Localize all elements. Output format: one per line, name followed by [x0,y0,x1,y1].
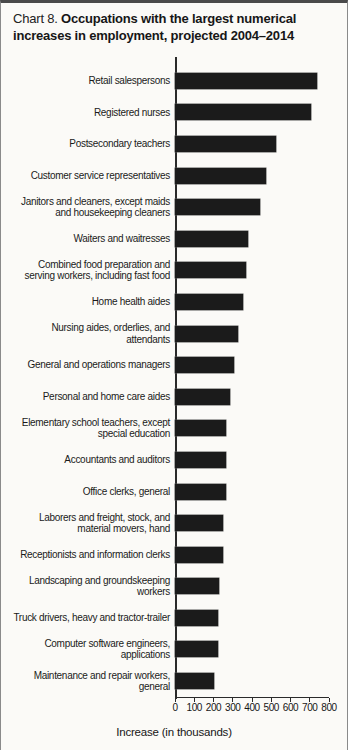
chart-number: Chart 8. [13,11,58,26]
bar-track [175,389,330,405]
category-label: Maintenance and repair workers, general [1,670,175,693]
x-tick-label: 600 [283,702,299,713]
bar-track [175,515,330,531]
bar-rows: Retail salespersonsRegistered nursesPost… [1,57,347,697]
category-label: Office clerks, general [1,486,175,498]
x-tick-label: 500 [264,702,280,713]
category-label: Receptionists and information clerks [1,549,175,561]
bar-row: Janitors and cleaners, except maids and … [1,191,347,223]
category-label: Janitors and cleaners, except maids and … [1,196,175,219]
bar-row: Nursing aides, orderlies, and attendants [1,318,347,350]
category-label: Registered nurses [1,107,175,119]
y-axis-line [175,57,177,699]
bar-row: Postsecondary teachers [1,128,347,160]
category-label: General and operations managers [1,359,175,371]
bar [175,673,214,689]
bar [175,484,226,500]
category-label: Landscaping and groundskeeping workers [1,575,175,598]
category-label: Waiters and waitresses [1,233,175,245]
category-label: Retail salespersons [1,75,175,87]
bar-row: Truck drivers, heavy and tractor-trailer [1,602,347,634]
bar-track [175,610,330,626]
bar-track [175,420,330,436]
category-label: Personal and home care aides [1,391,175,403]
bar-track [175,231,330,247]
bar-track [175,484,330,500]
bar-track [175,452,330,468]
bar-track [175,578,330,594]
bar [175,199,260,215]
bar-track [175,168,330,184]
bar [175,610,218,626]
category-label: Combined food preparation and serving wo… [1,259,175,282]
category-label: Home health aides [1,296,175,308]
bar-row: Waiters and waitresses [1,223,347,255]
bar-row: Laborers and freight, stock, and materia… [1,507,347,539]
category-label: Customer service representatives [1,170,175,182]
bar [175,452,226,468]
bar-row: Accountants and auditors [1,444,347,476]
bar-track [175,357,330,373]
bar [175,326,238,342]
bar-row: Landscaping and groundskeeping workers [1,571,347,603]
x-tick-label: 400 [244,702,260,713]
bar-track [175,326,330,342]
bar-row: Combined food preparation and serving wo… [1,255,347,287]
category-label: Nursing aides, orderlies, and attendants [1,322,175,345]
chart-frame: Chart 8. Occupations with the largest nu… [0,0,348,750]
bar [175,294,243,310]
x-tick-label: 800 [321,702,337,713]
x-tick-label: 300 [225,702,241,713]
bar-row: Home health aides [1,286,347,318]
bar-track [175,199,330,215]
bar-row: Customer service representatives [1,160,347,192]
bar-row: Elementary school teachers, except speci… [1,413,347,445]
x-tick-label: 700 [302,702,318,713]
x-tick-label: 0 [172,702,177,713]
bar [175,357,234,373]
category-label: Accountants and auditors [1,454,175,466]
bar-track [175,104,330,120]
category-label: Elementary school teachers, except speci… [1,417,175,440]
bar-track [175,641,330,657]
bar-row: Retail salespersons [1,65,347,97]
x-tick-label: 100 [187,702,203,713]
bar-track [175,262,330,278]
bar-row: Maintenance and repair workers, general [1,665,347,697]
bar [175,136,276,152]
bar-track [175,547,330,563]
bar [175,231,248,247]
bar-row: General and operations managers [1,349,347,381]
bar-track [175,73,330,89]
bar [175,73,317,89]
bar-row: Personal and home care aides [1,381,347,413]
category-label: Truck drivers, heavy and tractor-trailer [1,612,175,624]
category-label: Postsecondary teachers [1,138,175,150]
bar [175,389,230,405]
bar [175,547,223,563]
chart-title: Chart 8. Occupations with the largest nu… [13,10,337,44]
bar [175,578,219,594]
bar [175,641,218,657]
bar-track [175,136,330,152]
bar-row: Computer software engineers, application… [1,634,347,666]
bar-chart: Retail salespersonsRegistered nursesPost… [1,57,347,738]
bar [175,262,246,278]
bar [175,104,311,120]
bar-track [175,294,330,310]
x-tick-label: 200 [206,702,222,713]
bar [175,515,223,531]
category-label: Laborers and freight, stock, and materia… [1,512,175,535]
bar-row: Registered nurses [1,97,347,129]
x-axis-title: Increase (in thousands) [1,726,347,738]
x-axis: 0100200300400500600700800 [175,697,329,715]
bar [175,168,266,184]
bar-track [175,673,330,689]
category-label: Computer software engineers, application… [1,638,175,661]
bar-row: Office clerks, general [1,476,347,508]
bar-row: Receptionists and information clerks [1,539,347,571]
bar [175,420,226,436]
